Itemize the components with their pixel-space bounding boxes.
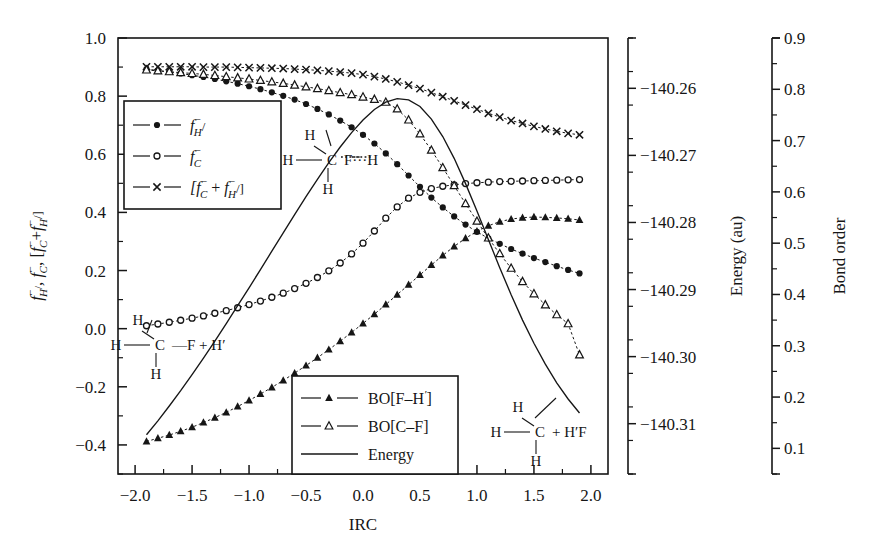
y-axis-bond-group: 0.90.80.70.60.50.40.30.20.1Bond order bbox=[772, 29, 849, 474]
marker-open-circle bbox=[394, 204, 400, 210]
marker-filled-circle bbox=[565, 267, 571, 273]
marker-open-circle bbox=[485, 179, 491, 185]
bond-tick-label: 0.6 bbox=[784, 183, 805, 202]
marker-cross bbox=[314, 67, 321, 74]
annotation-reactant-bond-top bbox=[142, 331, 154, 339]
marker-open-circle bbox=[280, 290, 286, 296]
marker-cross bbox=[405, 81, 412, 88]
x-axis-title: IRC bbox=[349, 515, 377, 534]
marker-cross bbox=[268, 65, 275, 72]
marker-open-triangle bbox=[564, 320, 572, 327]
marker-filled-triangle bbox=[257, 390, 265, 397]
marker-open-circle bbox=[292, 286, 298, 292]
marker-filled-triangle bbox=[496, 218, 504, 225]
marker-open-triangle bbox=[314, 84, 322, 91]
marker-cross bbox=[382, 75, 389, 82]
bond-tick-label: 0.4 bbox=[784, 285, 806, 304]
marker-filled-triangle bbox=[530, 213, 538, 220]
marker-filled-circle bbox=[154, 122, 160, 128]
annotation-product: HHCH+ H′F bbox=[491, 398, 587, 469]
marker-open-circle bbox=[383, 215, 389, 221]
y-tick-label: −0.4 bbox=[75, 436, 106, 455]
marker-cross bbox=[519, 120, 526, 127]
marker-filled-circle bbox=[314, 106, 320, 112]
marker-open-circle bbox=[497, 179, 503, 185]
marker-filled-triangle bbox=[279, 376, 287, 383]
marker-open-circle bbox=[189, 315, 195, 321]
marker-filled-triangle bbox=[211, 413, 219, 420]
marker-filled-triangle bbox=[314, 354, 322, 361]
marker-filled-circle bbox=[462, 222, 468, 228]
legend-bottom[interactable]: BO[F–H′]BO[C–F]Energy bbox=[292, 376, 458, 474]
marker-open-circle bbox=[520, 178, 526, 184]
marker-filled-triangle bbox=[154, 434, 162, 441]
marker-open-circle bbox=[349, 251, 355, 257]
marker-cross bbox=[428, 89, 435, 96]
marker-open-triangle bbox=[234, 74, 242, 81]
figure-root: −2.0−1.5−1.0−0.50.00.51.01.52.0IRC1.00.8… bbox=[0, 0, 872, 559]
x-tick-label: −1.5 bbox=[177, 486, 208, 505]
y-tick-label: 0.6 bbox=[85, 145, 106, 164]
marker-filled-circle bbox=[371, 140, 377, 146]
marker-filled-circle bbox=[337, 117, 343, 123]
legend-bottom-item-label: BO[C–F] bbox=[368, 418, 428, 435]
marker-cross bbox=[439, 93, 446, 100]
x-tick-label: 2.0 bbox=[580, 486, 601, 505]
marker-open-circle bbox=[154, 153, 160, 159]
marker-filled-circle bbox=[428, 194, 434, 200]
x-tick-label: 1.5 bbox=[523, 486, 544, 505]
bond-tick-label: 0.2 bbox=[784, 388, 805, 407]
marker-cross bbox=[496, 113, 503, 120]
energy-tick-label: −140.29 bbox=[640, 281, 696, 300]
marker-open-circle bbox=[406, 195, 412, 201]
marker-open-circle bbox=[531, 178, 537, 184]
marker-open-circle bbox=[269, 294, 275, 300]
legend-top[interactable]: f−H/f−C[f−C + f−H/] bbox=[124, 101, 281, 209]
annotation-transition-top-h: H bbox=[305, 127, 316, 143]
marker-open-circle bbox=[178, 317, 184, 323]
marker-open-circle bbox=[257, 298, 263, 304]
marker-open-circle bbox=[360, 240, 366, 246]
marker-open-circle bbox=[474, 180, 480, 186]
marker-filled-circle bbox=[451, 213, 457, 219]
marker-filled-circle bbox=[280, 93, 286, 99]
annotation-product-leader bbox=[535, 398, 556, 418]
marker-filled-triangle bbox=[291, 369, 299, 376]
bond-tick-label: 0.9 bbox=[784, 29, 805, 48]
x-axis-group: −2.0−1.5−1.0−0.50.00.51.01.52.0IRC bbox=[120, 465, 602, 534]
y-axis-energy-title: Energy (au) bbox=[727, 216, 746, 296]
marker-open-triangle bbox=[519, 277, 527, 284]
marker-open-circle bbox=[200, 313, 206, 319]
marker-filled-triangle bbox=[462, 234, 470, 241]
marker-cross bbox=[416, 85, 423, 92]
marker-filled-triangle bbox=[507, 215, 515, 222]
marker-filled-circle bbox=[292, 97, 298, 103]
marker-cross bbox=[508, 117, 515, 124]
marker-filled-triangle bbox=[405, 281, 413, 288]
marker-filled-circle bbox=[257, 86, 263, 92]
marker-cross bbox=[565, 130, 572, 137]
marker-cross bbox=[485, 110, 492, 117]
marker-filled-circle bbox=[440, 204, 446, 210]
marker-filled-triangle bbox=[439, 251, 447, 258]
annotation-product-right-group: + H′F bbox=[552, 424, 587, 440]
annotation-transition-left-h: H bbox=[283, 152, 294, 168]
marker-cross bbox=[473, 106, 480, 113]
y-axis-left-group: 1.00.80.60.40.20.0−0.2−0.4f−H/, f−C, [f−… bbox=[24, 29, 127, 474]
marker-open-circle bbox=[326, 268, 332, 274]
marker-cross bbox=[325, 68, 332, 75]
marker-filled-circle bbox=[497, 241, 503, 247]
marker-open-triangle bbox=[439, 163, 447, 170]
marker-open-triangle bbox=[200, 70, 208, 77]
chart-canvas: −2.0−1.5−1.0−0.50.00.51.01.52.0IRC1.00.8… bbox=[0, 0, 872, 559]
marker-filled-circle bbox=[326, 111, 332, 117]
annotation-reactant-left-h: H bbox=[111, 337, 122, 353]
marker-filled-triangle bbox=[428, 261, 436, 268]
marker-filled-triangle bbox=[348, 328, 356, 335]
marker-filled-circle bbox=[405, 172, 411, 178]
marker-filled-triangle bbox=[371, 310, 379, 317]
marker-open-circle bbox=[246, 302, 252, 308]
marker-filled-triangle bbox=[450, 242, 458, 249]
annotation-product-bottom-h: H bbox=[531, 453, 542, 469]
marker-cross bbox=[542, 125, 549, 132]
